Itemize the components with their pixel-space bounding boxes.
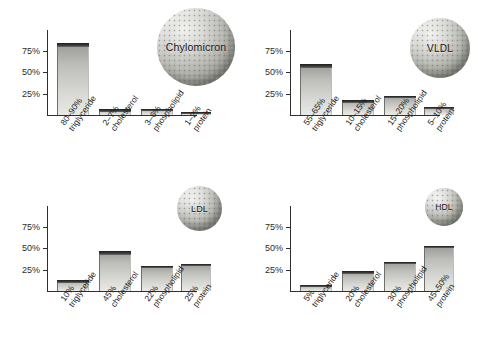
y-tick-label-75: 75% xyxy=(253,46,283,56)
y-tick-label-50: 50% xyxy=(10,67,40,77)
lipoprotein-figure: Chylomicron 75% 50% 25% 80–90% triglycer… xyxy=(0,0,486,357)
y-tick-label-50: 50% xyxy=(253,243,283,253)
bar-cap xyxy=(181,264,211,266)
y-tick-label-25: 25% xyxy=(10,89,40,99)
y-tick-25 xyxy=(43,270,47,271)
y-tick-50 xyxy=(43,248,47,249)
y-axis xyxy=(47,30,48,115)
y-tick-label-25: 25% xyxy=(10,265,40,275)
chart-panel-chylomicron: Chylomicron 75% 50% 25% 80–90% triglycer… xyxy=(0,0,243,178)
y-axis xyxy=(290,206,291,291)
chart-vldl: 75% 50% 25% 55–65% triglyceride 10–15% c… xyxy=(290,30,440,115)
bar-cap xyxy=(57,43,89,47)
x-label-cholesterol: 2–7% cholesterol xyxy=(101,88,141,133)
x-label-name: triglyceride xyxy=(310,270,342,309)
y-tick-75 xyxy=(43,51,47,52)
x-label-protein: 1–2% protein xyxy=(183,101,214,134)
y-tick-label-75: 75% xyxy=(10,222,40,232)
y-tick-label-50: 50% xyxy=(253,67,283,77)
x-label-triglyceride: 5% triglyceride xyxy=(302,264,342,309)
chart-panel-hdl: HDL 75% 50% 25% 5% triglyceride 20% chol… xyxy=(243,178,486,357)
y-tick-label-75: 75% xyxy=(253,222,283,232)
y-tick-75 xyxy=(43,227,47,228)
chart-hdl: 75% 50% 25% 5% triglyceride 20% choleste… xyxy=(290,206,440,291)
y-axis xyxy=(47,206,48,291)
chart-chylomicron: 75% 50% 25% 80–90% triglyceride 2–7% cho… xyxy=(47,30,197,115)
bar-cap xyxy=(300,64,332,68)
y-tick-25 xyxy=(43,94,47,95)
y-tick-50 xyxy=(43,72,47,73)
x-label-cholesterol: 10–15% cholesterol xyxy=(344,88,384,133)
x-label-triglyceride: 10% triglyceride xyxy=(59,264,99,309)
y-tick-25 xyxy=(286,94,290,95)
y-tick-label-50: 50% xyxy=(10,243,40,253)
y-tick-25 xyxy=(286,270,290,271)
y-tick-label-75: 75% xyxy=(10,46,40,56)
bar-cap xyxy=(99,251,131,255)
y-tick-label-25: 25% xyxy=(253,89,283,99)
chart-ldl: 75% 50% 25% 10% triglyceride 45% cholest… xyxy=(47,206,197,291)
x-label-protein: 5–10% protein xyxy=(426,100,457,133)
y-tick-label-25: 25% xyxy=(253,265,283,275)
y-tick-50 xyxy=(286,248,290,249)
y-tick-75 xyxy=(286,51,290,52)
bar-cap xyxy=(424,246,454,248)
y-axis xyxy=(290,30,291,115)
y-tick-50 xyxy=(286,72,290,73)
chart-panel-vldl: VLDL 75% 50% 25% 55–65% triglyceride 10–… xyxy=(243,0,486,178)
y-tick-75 xyxy=(286,227,290,228)
chart-panel-ldl: LDL 75% 50% 25% 10% triglyceride 45% cho… xyxy=(0,178,243,357)
